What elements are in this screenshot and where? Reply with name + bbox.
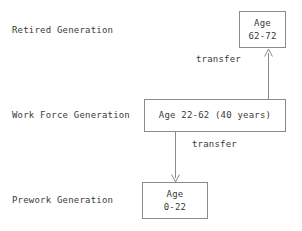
node-box-work-force-generation[interactable]: Age 22-62 (40 years): [144, 99, 286, 132]
row-label-retired-generation: Retired Generation: [12, 26, 113, 35]
edge-label-transfer-down: transfer: [192, 140, 237, 149]
edge-label-transfer-up: transfer: [196, 55, 241, 64]
node-box-retired-generation[interactable]: Age 62-72: [239, 11, 286, 48]
node-prework-line1: Age: [167, 188, 184, 200]
row-label-work-force-generation: Work Force Generation: [12, 111, 130, 120]
node-retired-line1: Age: [254, 17, 271, 29]
node-prework-line2: 0-22: [164, 201, 186, 213]
node-retired-line2: 62-72: [248, 30, 276, 42]
row-label-prework-generation: Prework Generation: [12, 196, 113, 205]
node-box-prework-generation[interactable]: Age 0-22: [142, 182, 208, 219]
node-workforce-line1: Age 22-62 (40 years): [159, 109, 271, 121]
diagram-canvas: Retired Generation Work Force Generation…: [0, 0, 302, 231]
arrow-down-workforce-to-prework: [165, 131, 187, 185]
arrow-up-workforce-to-retired: [258, 46, 280, 101]
